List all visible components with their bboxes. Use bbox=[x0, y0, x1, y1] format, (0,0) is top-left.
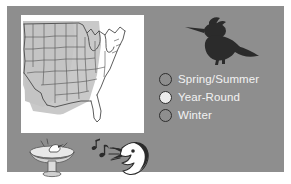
legend-swatch-winter bbox=[159, 109, 172, 122]
legend-item-year-round[interactable]: Year-Round bbox=[159, 89, 281, 106]
music-notes-icon bbox=[91, 138, 109, 157]
birdbath-icon bbox=[27, 136, 77, 178]
figure-panel: Spring/Summer Year-Round Winter bbox=[7, 6, 284, 172]
legend-item-spring-summer[interactable]: Spring/Summer bbox=[159, 71, 281, 88]
legend-label-year-round: Year-Round bbox=[178, 91, 240, 104]
range-map bbox=[21, 15, 144, 133]
kingfisher-silhouette-icon bbox=[175, 16, 261, 68]
singing-bird-head-icon bbox=[89, 135, 151, 180]
legend-label-spring-summer: Spring/Summer bbox=[178, 73, 259, 86]
legend-label-winter: Winter bbox=[178, 109, 212, 122]
map-legend: Spring/Summer Year-Round Winter bbox=[159, 71, 281, 125]
legend-swatch-year-round bbox=[159, 91, 172, 104]
legend-swatch-spring-summer bbox=[159, 73, 172, 86]
legend-item-winter[interactable]: Winter bbox=[159, 107, 281, 124]
figure-root: Spring/Summer Year-Round Winter bbox=[0, 0, 291, 184]
